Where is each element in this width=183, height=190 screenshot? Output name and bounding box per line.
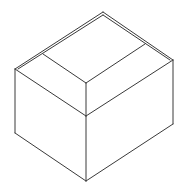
left-bottom-edge — [15, 133, 86, 181]
box-diagram — [0, 0, 183, 190]
top-right-inner — [103, 15, 170, 60]
middle-to-right-top — [86, 60, 173, 116]
box-drawing — [0, 0, 183, 190]
right-bottom-edge — [86, 124, 173, 181]
lid-left-edge — [43, 54, 86, 83]
top-right-outer — [103, 12, 173, 60]
lid-right-edge — [86, 44, 145, 83]
top-left-outer — [15, 12, 103, 69]
top-left-inner — [18, 15, 103, 69]
